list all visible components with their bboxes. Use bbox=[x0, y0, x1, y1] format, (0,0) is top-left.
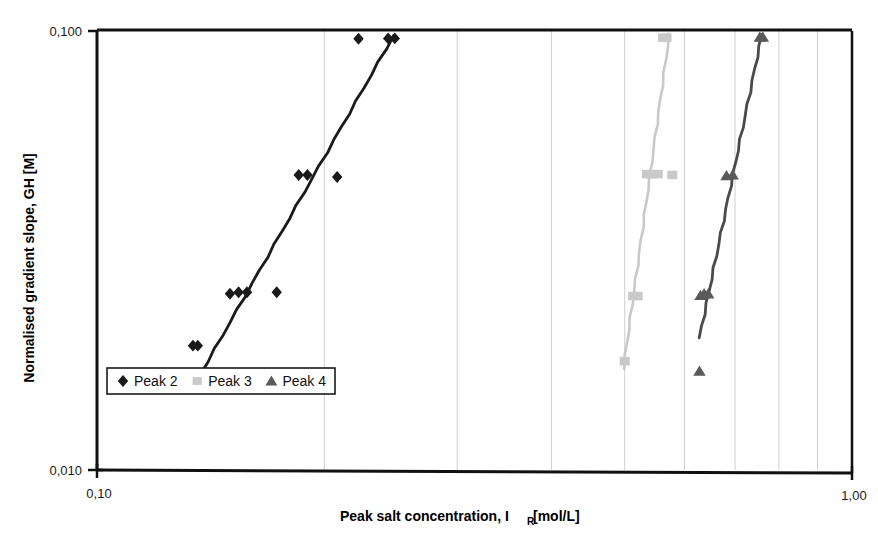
x-tick-label-left: 0,10 bbox=[86, 486, 111, 501]
legend-label-peak-4: Peak 4 bbox=[282, 373, 326, 389]
y-axis-title-text: Normalised gradient slope, GH [M] bbox=[21, 153, 37, 382]
x-tick-label-right: 1,00 bbox=[841, 488, 866, 503]
data-point-square bbox=[662, 34, 672, 43]
y-tick-label-top: 0,100 bbox=[49, 24, 82, 39]
y-axis-title: Normalised gradient slope, GH [M] bbox=[21, 153, 37, 382]
chart-background bbox=[0, 0, 878, 540]
y-tick-label-bottom: 0,010 bbox=[49, 463, 82, 478]
legend-label-peak-3: Peak 3 bbox=[208, 373, 252, 389]
x-axis-title-tail: [mol/L] bbox=[533, 508, 580, 524]
log-log-scatter-chart: 0,1000,0100,101,00 Peak 2Peak 3Peak 4 No… bbox=[0, 0, 878, 540]
data-point-square bbox=[667, 171, 677, 180]
data-point-square bbox=[653, 170, 663, 179]
x-axis-title-main: Peak salt concentration, I bbox=[340, 508, 509, 524]
data-point-square bbox=[620, 357, 630, 366]
chart-legend[interactable]: Peak 2Peak 3Peak 4 bbox=[107, 368, 335, 394]
data-point-square bbox=[633, 292, 643, 301]
chart-figure: 0,1000,0100,101,00 Peak 2Peak 3Peak 4 No… bbox=[0, 0, 878, 540]
data-point-square bbox=[193, 377, 202, 385]
legend-label-peak-2: Peak 2 bbox=[134, 373, 178, 389]
